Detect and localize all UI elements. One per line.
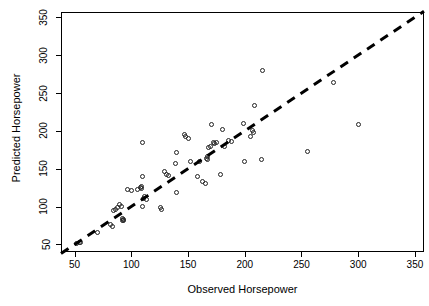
data-point — [214, 140, 219, 145]
data-point — [251, 130, 256, 135]
data-point — [174, 150, 179, 155]
data-point — [259, 157, 264, 162]
data-point — [121, 218, 126, 223]
data-area — [61, 12, 424, 252]
data-point — [140, 140, 145, 145]
y-tick-label: 100 — [0, 201, 52, 212]
x-tick-label: 200 — [230, 259, 260, 270]
data-point — [78, 240, 83, 245]
x-tick — [75, 252, 76, 257]
y-tick-label: 350 — [0, 12, 52, 23]
x-tick — [188, 252, 189, 257]
data-point — [205, 157, 210, 162]
x-tick-label: 50 — [60, 259, 90, 270]
data-point — [331, 80, 336, 85]
y-tick-label: 250 — [0, 88, 52, 99]
x-tick — [301, 252, 302, 257]
data-point — [248, 134, 253, 139]
y-tick — [56, 55, 61, 56]
data-point — [222, 144, 227, 149]
x-tick-label: 100 — [116, 259, 146, 270]
y-tick-label: 300 — [0, 50, 52, 61]
x-tick — [131, 252, 132, 257]
data-point — [260, 68, 265, 73]
data-point — [242, 159, 247, 164]
data-point — [110, 224, 115, 229]
data-point — [129, 188, 134, 193]
x-tick-label: 350 — [400, 259, 429, 270]
y-tick — [56, 93, 61, 94]
data-point — [209, 122, 214, 127]
y-tick-label: 200 — [0, 125, 52, 136]
y-tick — [56, 244, 61, 245]
data-point — [229, 139, 234, 144]
data-point — [119, 204, 124, 209]
data-point — [241, 121, 246, 126]
data-point — [252, 103, 257, 108]
y-tick-label: 150 — [0, 163, 52, 174]
data-point — [218, 172, 223, 177]
data-point — [144, 197, 149, 202]
y-tick — [56, 131, 61, 132]
data-point — [186, 136, 191, 141]
x-tick — [245, 252, 246, 257]
y-tick — [56, 169, 61, 170]
data-point — [356, 122, 361, 127]
data-point — [305, 149, 310, 154]
x-tick-label: 300 — [343, 259, 373, 270]
data-point — [195, 174, 200, 179]
y-tick-label: 50 — [0, 239, 52, 250]
x-tick — [415, 252, 416, 257]
data-point — [203, 181, 208, 186]
y-tick — [56, 17, 61, 18]
data-point — [220, 127, 225, 132]
x-tick-label: 150 — [173, 259, 203, 270]
data-point — [197, 159, 202, 164]
data-point — [174, 190, 179, 195]
data-point — [140, 204, 145, 209]
scatter-plot: 50100150200250300350 5010015020025030035… — [0, 0, 429, 306]
y-tick — [56, 207, 61, 208]
data-point — [166, 173, 171, 178]
x-axis-title: Observed Horsepower — [61, 283, 424, 295]
data-point — [140, 174, 145, 179]
x-tick — [358, 252, 359, 257]
data-point — [188, 159, 193, 164]
x-tick-label: 250 — [286, 259, 316, 270]
data-point — [173, 161, 178, 166]
data-point — [159, 207, 164, 212]
y-axis-title: Predicted Horsepower — [10, 28, 22, 228]
data-point — [139, 186, 144, 191]
data-point — [95, 230, 100, 235]
